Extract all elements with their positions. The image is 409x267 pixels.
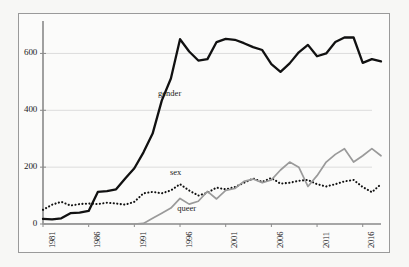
series-line-gender bbox=[43, 38, 381, 220]
gridlines bbox=[43, 53, 372, 167]
series-label-queer: queer bbox=[177, 203, 196, 213]
y-axis-tick-label: 400 bbox=[11, 104, 37, 114]
line-chart bbox=[0, 0, 409, 267]
x-axis-tick-label: 2001 bbox=[229, 232, 239, 248]
x-axis-tick-label: 2011 bbox=[321, 232, 331, 248]
y-axis-tick-label: 200 bbox=[11, 161, 37, 171]
y-axis-tick-label: 0 bbox=[11, 218, 37, 228]
series-label-gender: gender bbox=[158, 88, 181, 98]
y-axis-tick-label: 600 bbox=[11, 47, 37, 57]
x-axis-tick-label: 2006 bbox=[275, 232, 285, 248]
x-axis-tick-label: 1996 bbox=[184, 232, 194, 248]
series-line-sex bbox=[43, 178, 381, 210]
x-axis-tick-label: 1991 bbox=[138, 232, 148, 248]
series-label-sex: sex bbox=[170, 167, 181, 177]
x-axis-tick-label: 2016 bbox=[366, 232, 376, 248]
chart-screenshot: 0200400600198119861991199620012006201120… bbox=[0, 0, 409, 267]
x-axis-tick-label: 1986 bbox=[92, 232, 102, 248]
x-axis-tick-label: 1981 bbox=[47, 232, 57, 248]
